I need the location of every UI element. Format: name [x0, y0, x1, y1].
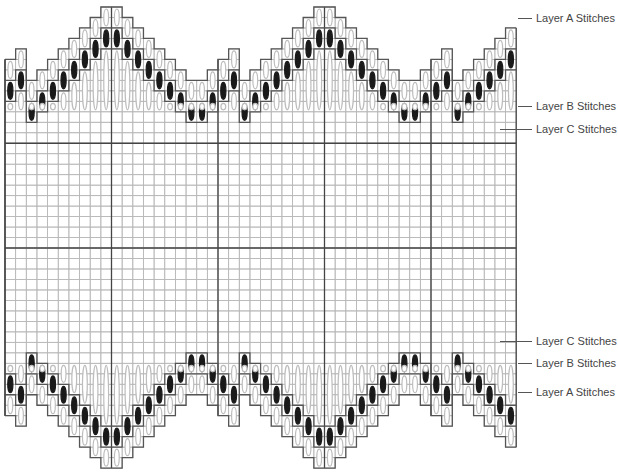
leader-bottom-a — [518, 392, 532, 393]
leader-top-a — [518, 18, 532, 19]
leader-top-c — [500, 129, 532, 130]
label-bottom-layer-c: Layer C Stitches — [536, 335, 617, 347]
leader-top-b — [518, 106, 532, 107]
stitch-chart — [0, 0, 618, 476]
label-bottom-layer-b: Layer B Stitches — [536, 357, 616, 369]
label-top-layer-b: Layer B Stitches — [536, 100, 616, 112]
label-bottom-layer-a: Layer A Stitches — [536, 386, 615, 398]
leader-bottom-b — [518, 363, 532, 364]
label-top-layer-a: Layer A Stitches — [536, 12, 615, 24]
leader-bottom-c — [500, 341, 532, 342]
label-top-layer-c: Layer C Stitches — [536, 123, 617, 135]
